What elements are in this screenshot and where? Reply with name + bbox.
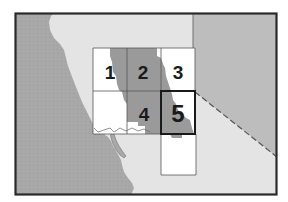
tile-label-4: 4 — [139, 104, 150, 125]
index-map: 1 2 3 4 5 — [0, 0, 288, 202]
tile-unlabeled-south[interactable] — [161, 134, 196, 175]
tile-label-1: 1 — [105, 62, 116, 83]
tile-label-5: 5 — [171, 100, 184, 127]
tile-label-3: 3 — [173, 62, 184, 83]
tile-label-2: 2 — [138, 62, 149, 83]
shaded-gap — [128, 122, 138, 128]
tile-unlabeled-west[interactable] — [93, 91, 127, 134]
